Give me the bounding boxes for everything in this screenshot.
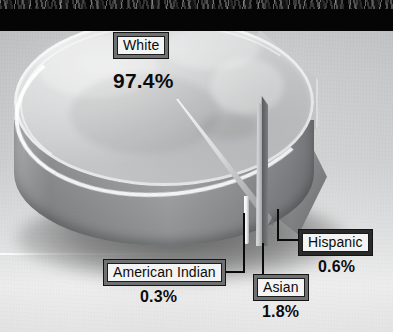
value-hispanic: 0.6% [318,258,355,276]
leader-line-american-indian-vertical [243,213,245,273]
top-dark-band [0,0,393,31]
value-american-indian: 0.3% [140,288,177,306]
leader-line-hispanic-horizontal [277,239,301,241]
label-asian[interactable]: Asian [254,275,308,300]
label-white[interactable]: White [114,33,168,58]
label-hispanic[interactable]: Hispanic [299,230,372,255]
value-asian: 1.8% [262,303,299,321]
value-white: 97.4% [113,69,174,93]
pie-chart-image: White 97.4% American Indian 0.3% Asian 1… [0,0,393,332]
leader-line-asian-vertical [262,243,264,276]
top-band-texture-overlay [0,0,393,9]
leader-line-hispanic-vertical [277,209,279,241]
label-american-indian[interactable]: American Indian [104,260,225,285]
